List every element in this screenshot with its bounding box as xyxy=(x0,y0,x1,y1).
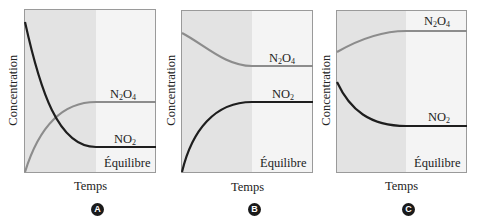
n2o4-label: N2O4 xyxy=(424,15,450,29)
chart-panel-c: N2O4 NO2 Équilibre Concentration Temps C xyxy=(0,0,477,222)
y-axis-label: Concentration xyxy=(320,50,333,130)
equilibrium-region xyxy=(406,10,467,173)
pre-equilibrium-region xyxy=(336,10,406,173)
x-axis-label: Temps xyxy=(385,180,418,193)
equilibrium-label: Équilibre xyxy=(414,157,461,170)
no2-label: NO2 xyxy=(428,111,450,125)
panel-badge-c: C xyxy=(402,203,415,216)
